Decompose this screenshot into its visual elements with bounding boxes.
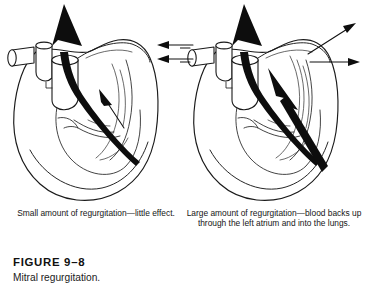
figure-number-label: FIGURE 9–8	[13, 256, 313, 268]
pulmonary-backflow-arrows-left	[155, 36, 195, 72]
figure-illustration	[0, 0, 365, 210]
figure-caption-block: FIGURE 9–8 Mitral regurgitation.	[13, 256, 313, 283]
caption-small-regurgitation: Small amount of regurgitation—little eff…	[8, 208, 184, 218]
panel-captions: Small amount of regurgitation—little eff…	[0, 208, 365, 254]
figure-title: Mitral regurgitation.	[13, 272, 313, 283]
caption-large-regurgitation: Large amount of regurgitation—blood back…	[186, 208, 362, 229]
heart-diagram-large-regurgitation	[180, 0, 362, 210]
heart-diagram-small-regurgitation	[0, 0, 182, 210]
